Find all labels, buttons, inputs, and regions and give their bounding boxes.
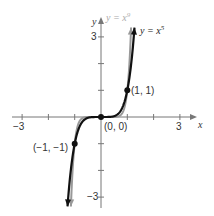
point-marker [124,87,130,93]
chart: y x −3 3 3 −3 y = x9 y = x5 (1, 1) (0, 0… [0,0,214,216]
y-tick-label-3: 3 [91,31,97,42]
plot-area [0,0,214,216]
x-tick-label-3: 3 [176,121,182,132]
legend-x9: y = x9 [106,11,130,23]
y-axis-arrow-icon [98,17,104,24]
point-label-neg1-neg1: (−1, −1) [33,142,68,153]
x-axis-label: x [198,119,202,130]
point-label-origin: (0, 0) [104,121,127,132]
y-axis-label: y [92,16,96,27]
x-axis-arrow-icon [190,114,197,120]
y-tick-label-neg3: −3 [87,191,98,202]
point-label-1-1: (1, 1) [131,85,154,96]
x-tick-label-neg3: −3 [13,121,24,132]
legend-x5: y = x5 [140,24,164,36]
point-marker [72,141,78,147]
point-marker [98,114,104,120]
